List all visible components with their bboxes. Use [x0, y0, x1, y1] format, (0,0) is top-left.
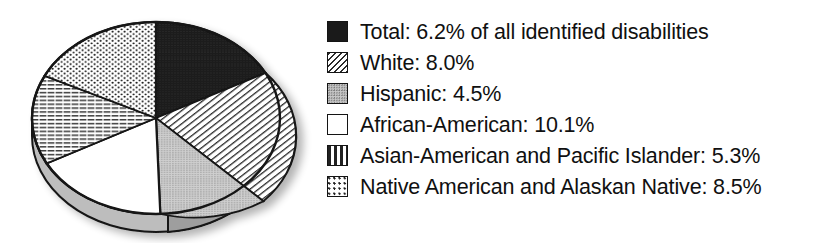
legend-item-native-american: Native American and Alaskan Native: 8.5%	[327, 171, 819, 202]
legend-label-asian-american: Asian-American and Pacific Islander: 5.3…	[360, 145, 760, 167]
gray-stipple-swatch-icon	[327, 83, 348, 104]
legend-item-total: Total: 6.2% of all identified disabiliti…	[327, 16, 819, 47]
legend-label-white: White: 8.0%	[360, 52, 474, 74]
coarse-dots-swatch-icon	[327, 176, 348, 197]
pie-chart-graphic	[18, 8, 318, 243]
legend-label-african-american: African-American: 10.1%	[360, 114, 594, 136]
legend-item-african-american: African-American: 10.1%	[327, 109, 819, 140]
solid-black-swatch-icon	[327, 21, 348, 42]
legend-label-total: Total: 6.2% of all identified disabiliti…	[360, 21, 709, 43]
legend-label-hispanic: Hispanic: 4.5%	[360, 83, 501, 105]
white-blank-swatch-icon	[327, 114, 348, 135]
pie-chart-svg	[18, 8, 318, 243]
legend-label-native-american: Native American and Alaskan Native: 8.5%	[360, 176, 762, 198]
legend-item-hispanic: Hispanic: 4.5%	[327, 78, 819, 109]
pie-chart-figure: Total: 6.2% of all identified disabiliti…	[0, 0, 824, 249]
diagonal-hatch-swatch-icon	[327, 52, 348, 73]
dashed-brick-swatch-icon	[327, 145, 348, 166]
chart-legend: Total: 6.2% of all identified disabiliti…	[327, 16, 819, 202]
legend-item-asian-american: Asian-American and Pacific Islander: 5.3…	[327, 140, 819, 171]
legend-item-white: White: 8.0%	[327, 47, 819, 78]
